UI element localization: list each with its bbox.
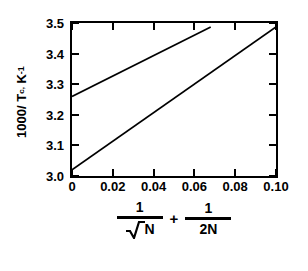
- y-tick-mark-right: [269, 83, 276, 85]
- term-one-denominator: N: [119, 220, 161, 239]
- chart-figure: 1000/ Tc, K-1 3.03.13.23.33.43.500.020.0…: [0, 0, 308, 271]
- y-axis-title-superscript: -1: [16, 66, 26, 74]
- term-one-denominator-text: N: [145, 221, 155, 237]
- x-tick-label: 0.04: [141, 179, 166, 194]
- y-tick-label: 3.5: [28, 16, 64, 31]
- term-one-numerator: 1: [126, 200, 154, 215]
- x-tick-mark: [71, 169, 73, 176]
- plot-area: [70, 21, 278, 178]
- x-tick-mark: [112, 169, 114, 176]
- x-tick-mark: [234, 169, 236, 176]
- x-axis-title: 1 N + 1 2N: [70, 200, 278, 239]
- x-tick-label: 0: [68, 179, 75, 194]
- x-tick-mark-top: [71, 23, 73, 30]
- x-axis-term-two: 1 2N: [185, 201, 231, 237]
- x-tick-mark: [275, 169, 277, 176]
- y-tick-label: 3.4: [28, 46, 64, 61]
- term-two-fraction-bar: [185, 217, 231, 220]
- series-lower-line: [72, 27, 276, 170]
- x-tick-label: 0.02: [100, 179, 125, 194]
- y-tick-mark-right: [269, 114, 276, 116]
- x-tick-label: 0.10: [263, 179, 288, 194]
- y-tick-mark: [72, 53, 79, 55]
- y-tick-mark: [72, 22, 79, 24]
- term-two-denominator: 2N: [193, 221, 223, 237]
- x-axis-term-one: 1 N: [117, 200, 163, 239]
- y-tick-mark: [72, 175, 79, 177]
- y-axis-title-subscript: c,: [17, 87, 26, 94]
- y-axis-title-unit: K: [14, 74, 29, 83]
- x-tick-mark: [193, 169, 195, 176]
- x-tick-mark-top: [193, 23, 195, 30]
- x-tick-mark-top: [112, 23, 114, 30]
- y-tick-label: 3.0: [28, 169, 64, 184]
- series-upper-line: [72, 27, 211, 96]
- x-tick-label: 0.06: [182, 179, 207, 194]
- x-tick-mark-top: [153, 23, 155, 30]
- y-tick-label: 3.1: [28, 138, 64, 153]
- term-one-fraction-bar: [117, 216, 163, 219]
- y-tick-mark: [72, 83, 79, 85]
- y-axis-title-prefix: 1000/ T: [14, 94, 29, 138]
- y-tick-mark: [72, 114, 79, 116]
- y-tick-mark: [72, 144, 79, 146]
- x-tick-mark-top: [234, 23, 236, 30]
- square-root-icon: [125, 220, 145, 239]
- x-tick-mark-top: [275, 23, 277, 30]
- data-lines: [72, 23, 276, 176]
- x-tick-mark: [153, 169, 155, 176]
- y-tick-mark-right: [269, 144, 276, 146]
- y-tick-label: 3.3: [28, 77, 64, 92]
- y-tick-mark-right: [269, 53, 276, 55]
- x-tick-label: 0.08: [223, 179, 248, 194]
- x-axis-plus-operator: +: [170, 210, 179, 229]
- term-two-numerator: 1: [194, 201, 222, 216]
- y-tick-label: 3.2: [28, 107, 64, 122]
